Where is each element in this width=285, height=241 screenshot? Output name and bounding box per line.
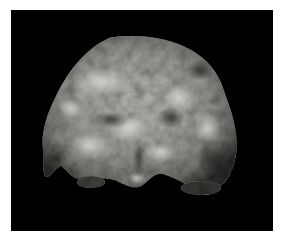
rendered-mass-image [11, 10, 273, 231]
image-panel [11, 10, 273, 231]
image-frame [0, 0, 285, 241]
